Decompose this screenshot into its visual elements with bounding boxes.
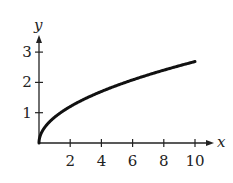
y-ticks: 123: [22, 43, 43, 122]
x-tick-label: 2: [65, 152, 75, 170]
x-tick-label: 8: [159, 152, 169, 170]
data-curve: [39, 62, 195, 143]
y-tick-label: 2: [22, 73, 32, 91]
y-axis-arrow-icon: [36, 35, 42, 43]
y-tick-label: 3: [22, 43, 32, 61]
chart: x y 246810 123: [0, 0, 233, 183]
y-axis-label: y: [33, 16, 43, 34]
axes: x y: [33, 16, 226, 151]
x-tick-label: 10: [185, 152, 204, 170]
x-tick-label: 6: [128, 152, 138, 170]
x-axis-arrow-icon: [206, 140, 214, 146]
x-tick-label: 4: [97, 152, 107, 170]
x-axis-label: x: [217, 133, 226, 151]
y-tick-label: 1: [22, 104, 32, 122]
